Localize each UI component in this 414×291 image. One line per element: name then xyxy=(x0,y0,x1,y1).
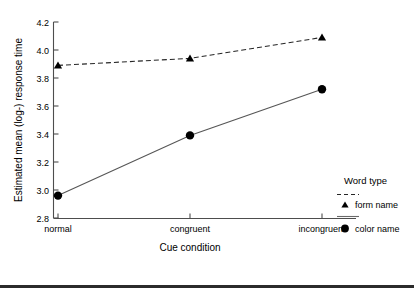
data-point-color-name-normal xyxy=(54,191,62,199)
y-axis-ticks xyxy=(54,22,59,218)
x-axis-ticks xyxy=(58,214,322,219)
legend-marker-form-name xyxy=(341,202,348,208)
legend: Word type form name color name xyxy=(337,175,400,234)
series-line-color-name xyxy=(58,89,322,195)
y-tick-label-4-2: 4.2 xyxy=(36,18,49,28)
legend-marker-color-name xyxy=(341,225,349,233)
x-tick-label-congruent: congruent xyxy=(170,224,211,234)
x-tick-label-normal: normal xyxy=(44,224,72,234)
y-tick-label-3-8: 3.8 xyxy=(36,74,49,84)
y-tick-label-3-2: 3.2 xyxy=(36,158,49,168)
interaction-plot: 4.2 4.0 3.8 3.6 3.4 3.2 3.0 2.8 Estimate… xyxy=(0,0,414,291)
legend-title: Word type xyxy=(344,175,387,186)
data-point-color-name-incongruent xyxy=(318,85,326,93)
page-bottom-rule xyxy=(0,285,414,288)
x-axis-title: Cue condition xyxy=(159,242,220,253)
y-axis-title: Estimated mean (log-) response time xyxy=(13,38,24,202)
figure-container: 4.2 4.0 3.8 3.6 3.4 3.2 3.0 2.8 Estimate… xyxy=(0,0,414,291)
data-point-color-name-congruent xyxy=(186,131,194,139)
y-tick-label-4-0: 4.0 xyxy=(36,46,49,56)
legend-label-form-name: form name xyxy=(355,200,398,210)
y-tick-label-2-8: 2.8 xyxy=(36,214,49,224)
data-point-form-name-congruent xyxy=(186,54,194,61)
y-tick-label-3-4: 3.4 xyxy=(36,130,49,140)
x-tick-label-incongruent: incongruent xyxy=(298,224,346,234)
data-point-form-name-incongruent xyxy=(318,33,326,40)
legend-label-color-name: color name xyxy=(355,224,400,234)
y-tick-label-3-0: 3.0 xyxy=(36,186,49,196)
y-tick-label-3-6: 3.6 xyxy=(36,102,49,112)
